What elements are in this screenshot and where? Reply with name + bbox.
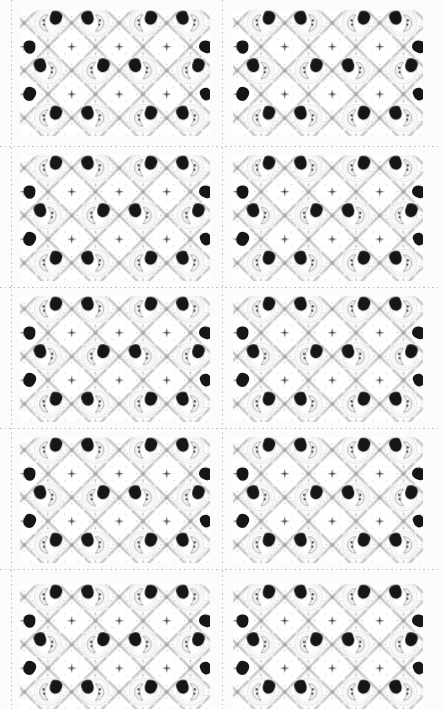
card-pattern-art (233, 155, 423, 281)
card-pattern-art (20, 296, 210, 422)
cut-line-vertical (222, 0, 223, 709)
card-pattern-art (233, 437, 423, 563)
cut-line-horizontal (0, 569, 438, 570)
card-pattern-art (20, 437, 210, 563)
pattern-card (20, 296, 210, 422)
pattern-card (20, 584, 210, 709)
card-pattern-art (20, 584, 210, 709)
cut-line-vertical (11, 0, 12, 709)
pattern-card (20, 155, 210, 281)
pattern-card (20, 10, 210, 136)
card-sheet (0, 0, 443, 709)
card-pattern-art (20, 155, 210, 281)
card-pattern-art (20, 10, 210, 136)
card-pattern-art (233, 296, 423, 422)
pattern-card (233, 584, 423, 709)
pattern-card (233, 437, 423, 563)
pattern-card (20, 437, 210, 563)
cut-line-horizontal (0, 146, 438, 147)
card-pattern-art (233, 10, 423, 136)
card-pattern-art (233, 584, 423, 709)
cut-line-horizontal (0, 428, 438, 429)
cut-line-horizontal (0, 287, 438, 288)
pattern-card (233, 155, 423, 281)
pattern-card (233, 296, 423, 422)
pattern-card (233, 10, 423, 136)
